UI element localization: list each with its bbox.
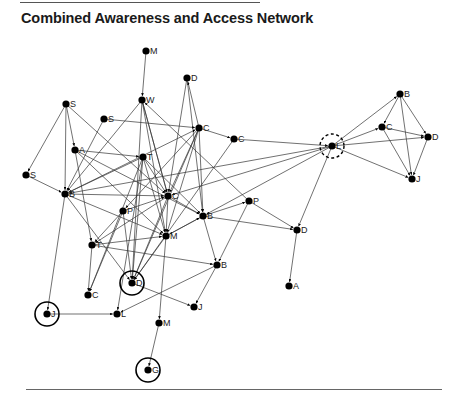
node-dot xyxy=(144,366,151,373)
node-dot xyxy=(155,319,162,326)
edge xyxy=(90,211,123,291)
node-label: A xyxy=(293,281,299,291)
node-dot xyxy=(285,282,292,289)
node-dot xyxy=(195,124,202,131)
edge xyxy=(290,230,297,282)
node-label: P xyxy=(253,196,259,206)
node-dot xyxy=(43,310,50,317)
node-dot xyxy=(164,192,171,199)
node-dot xyxy=(183,74,190,81)
edge xyxy=(234,139,328,146)
graph-node: M xyxy=(162,231,177,241)
graph-node: D xyxy=(293,225,308,235)
node-dot xyxy=(328,142,335,149)
edge-layer xyxy=(26,51,428,366)
node-dot xyxy=(84,291,91,298)
graph-node: S xyxy=(22,170,36,180)
node-label: P xyxy=(127,206,133,216)
node-label: M xyxy=(163,318,171,328)
graph-node: D xyxy=(183,73,198,83)
node-label: S xyxy=(30,170,36,180)
node-dot xyxy=(424,133,431,140)
edge xyxy=(203,216,293,229)
edge xyxy=(413,137,428,175)
edge xyxy=(28,104,66,171)
graph-node: L xyxy=(113,309,126,319)
node-dot xyxy=(62,100,69,107)
node-label: C xyxy=(238,134,245,144)
edge xyxy=(95,196,168,243)
node-label: B xyxy=(221,260,227,270)
node-label: C xyxy=(386,122,393,132)
node-label: B xyxy=(207,211,213,221)
node-label: M xyxy=(150,46,158,56)
node-label: C xyxy=(203,123,210,133)
edge xyxy=(143,157,200,213)
edge xyxy=(75,150,91,241)
node-label: W xyxy=(146,95,155,105)
edge xyxy=(65,194,164,196)
graph-node: C xyxy=(84,290,99,300)
edge xyxy=(203,216,216,261)
node-dot xyxy=(138,96,145,103)
edge xyxy=(65,130,195,194)
edge xyxy=(332,137,424,146)
graph-node: J xyxy=(408,174,420,184)
node-dot xyxy=(142,47,149,54)
node-dot xyxy=(139,153,146,160)
edge xyxy=(65,104,66,190)
graph-node: M xyxy=(155,318,170,328)
edge xyxy=(65,194,130,280)
node-dot xyxy=(128,279,135,286)
edge xyxy=(384,94,400,123)
node-dot xyxy=(88,241,95,248)
graph-node: D xyxy=(128,278,143,288)
ring-layer xyxy=(35,134,344,382)
node-label: J xyxy=(51,309,56,319)
node-label: B xyxy=(404,89,410,99)
node-dot xyxy=(119,207,126,214)
graph-node: G xyxy=(144,365,159,375)
network-graph: MDWSSCCATSBCPBPDMTBDCJLJMGALBCDJ xyxy=(0,0,456,407)
graph-node: T xyxy=(88,240,102,250)
node-label: T xyxy=(96,240,102,250)
graph-node: B xyxy=(199,211,213,221)
node-label: M xyxy=(170,231,178,241)
node-dot xyxy=(100,115,107,122)
edge xyxy=(159,236,166,319)
edge xyxy=(67,119,104,190)
node-dot xyxy=(22,171,29,178)
node-dot xyxy=(61,190,68,197)
node-label: G xyxy=(152,365,159,375)
graph-node: M xyxy=(142,46,157,56)
node-layer: MDWSSCCATSBCPBPDMTBDCJLJMGALBCDJ xyxy=(22,46,439,375)
graph-node: S xyxy=(62,99,76,109)
node-dot xyxy=(162,232,169,239)
edge xyxy=(400,94,426,134)
graph-node: S xyxy=(100,114,114,124)
graph-node: C xyxy=(230,134,245,144)
node-label: T xyxy=(147,152,153,162)
node-label: D xyxy=(191,73,198,83)
node-dot xyxy=(396,90,403,97)
node-label: J xyxy=(198,302,203,312)
graph-node: A xyxy=(285,281,299,291)
edge xyxy=(142,51,146,96)
node-dot xyxy=(199,212,206,219)
graph-node: B xyxy=(396,89,410,99)
node-dot xyxy=(245,197,252,204)
node-label: S xyxy=(70,99,76,109)
graph-node: B xyxy=(61,189,75,199)
node-label: S xyxy=(108,114,114,124)
node-label: C xyxy=(172,191,179,201)
node-label: L xyxy=(121,309,126,319)
edge xyxy=(400,94,411,175)
edge xyxy=(196,265,217,303)
edge xyxy=(95,211,123,242)
graph-node: W xyxy=(138,95,155,105)
node-label: B xyxy=(69,189,75,199)
edge xyxy=(332,146,408,177)
graph-node: C xyxy=(378,122,393,132)
graph-node: J xyxy=(190,302,202,312)
graph-node: B xyxy=(213,260,227,270)
